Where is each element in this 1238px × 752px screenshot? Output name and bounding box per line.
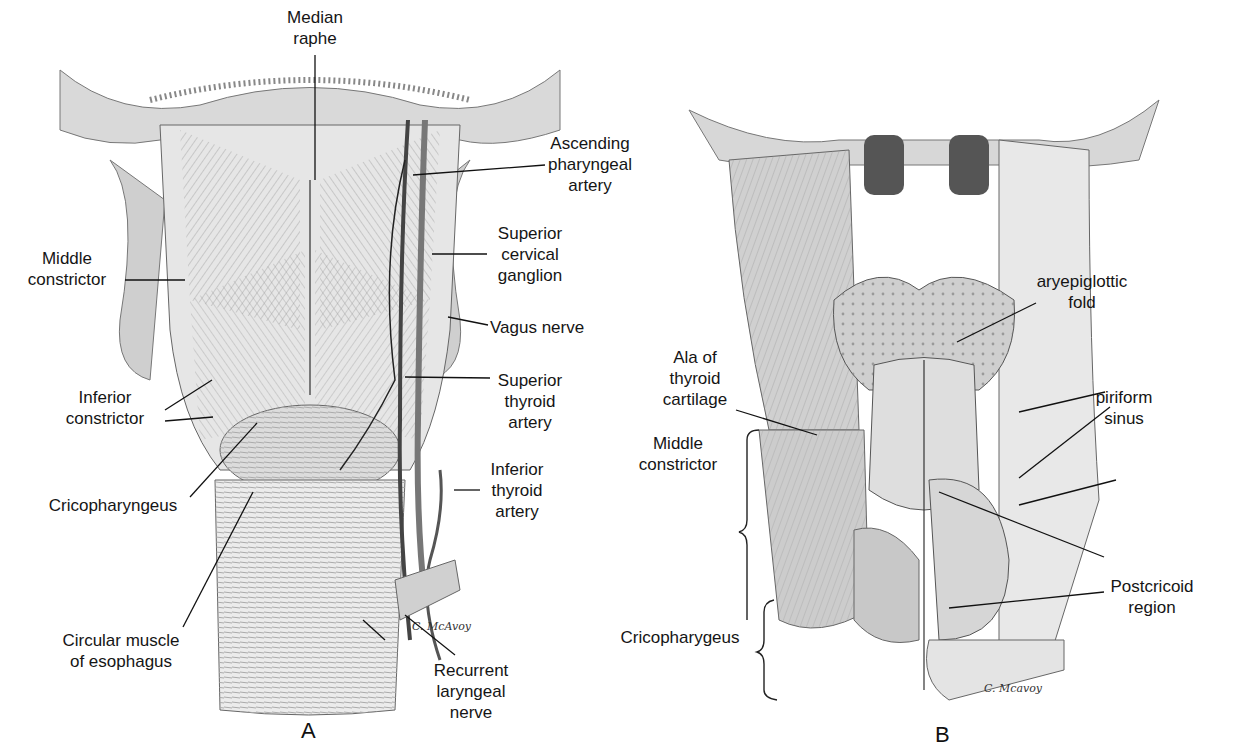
label-inferior-constrictor: Inferior constrictor xyxy=(50,387,160,429)
label-superior-thyroid-artery: Superior thyroid artery xyxy=(488,370,572,433)
label-recurrent-laryngeal-nerve: Recurrent laryngeal nerve xyxy=(428,660,514,723)
label-aryepiglottic-fold: aryepiglottic fold xyxy=(1017,271,1147,313)
label-cricopharyngeus: Cricopharyngeus xyxy=(38,495,188,516)
panel-letter-b: B xyxy=(935,722,950,748)
label-cricopharygeus: Cricopharygeus xyxy=(605,627,755,648)
signature-b: C. Mcavoy xyxy=(984,682,1043,695)
label-circular-muscle-of-esophagus: Circular muscle of esophagus xyxy=(56,630,186,672)
label-ala-of-thyroid-cartilage: Ala of thyroid cartilage xyxy=(654,347,736,410)
label-median-raphe: Median raphe xyxy=(272,7,358,49)
panel-a-posterior-pharynx: C. McAvoy Median raphe Ascending pharyng… xyxy=(0,0,619,752)
label-middle-constrictor: Middle constrictor xyxy=(12,248,122,290)
panel-letter-a: A xyxy=(301,718,316,744)
signature-a: C. McAvoy xyxy=(412,620,472,633)
label-inferior-thyroid-artery: Inferior thyroid artery xyxy=(482,459,552,522)
label-postcricoid-region: Postcricoid region xyxy=(1097,576,1207,618)
label-piriform-sinus: piriform sinus xyxy=(1084,387,1164,429)
label-superior-cervical-ganglion: Superior cervical ganglion xyxy=(488,223,572,286)
panel-b-opened-pharynx: C. Mcavoy aryepiglottic fold Ala of thyr… xyxy=(619,0,1238,752)
label-vagus-nerve: Vagus nerve xyxy=(490,317,620,338)
label-middle-constrictor-b: Middle constrictor xyxy=(623,433,733,475)
